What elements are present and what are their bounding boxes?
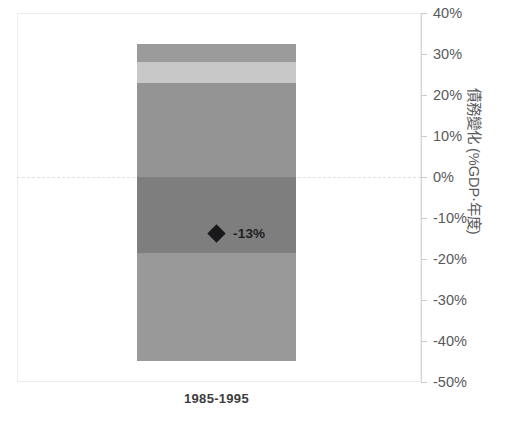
bar-segment-segment-3[interactable] (137, 83, 296, 177)
y-tick-mark (421, 13, 427, 14)
diamond-marker-icon (207, 224, 225, 242)
y-tick-mark (421, 300, 427, 301)
y-tick-mark (421, 382, 427, 383)
bar-segment-segment-5[interactable] (137, 253, 296, 362)
bar-segment-segment-2[interactable] (137, 62, 296, 83)
y-tick-label: 0% (433, 170, 454, 185)
y-tick-mark (421, 341, 427, 342)
y-tick-label: 30% (433, 47, 462, 62)
y-tick-mark (421, 136, 427, 137)
y-tick-label: -50% (433, 375, 467, 390)
y-tick-label: -30% (433, 293, 467, 308)
y-tick-mark (421, 218, 427, 219)
y-tick-mark (421, 54, 427, 55)
value-marker-group: -13% (210, 224, 265, 242)
y-axis-line (421, 13, 422, 382)
y-tick-label: -10% (433, 211, 467, 226)
y-tick-label: 10% (433, 129, 462, 144)
x-axis-category-label: 1985-1995 (137, 391, 296, 406)
y-tick-mark (421, 177, 427, 178)
marker-value-label: -13% (233, 226, 265, 241)
stacked-bar-1985-1995[interactable] (137, 44, 296, 362)
y-tick-mark (421, 95, 427, 96)
y-tick-label: -40% (433, 334, 467, 349)
y-tick-label: 40% (433, 6, 462, 21)
y-tick-mark (421, 259, 427, 260)
chart-container: 40%30%20%10%0%-10%-20%-30%-40%-50% 債務變化 … (0, 0, 523, 422)
y-tick-label: 20% (433, 88, 462, 103)
bar-segment-segment-1[interactable] (137, 44, 296, 62)
y-tick-label: -20% (433, 252, 467, 267)
y-axis-title: 債務變化 (%GDP‧年度) (467, 88, 482, 308)
